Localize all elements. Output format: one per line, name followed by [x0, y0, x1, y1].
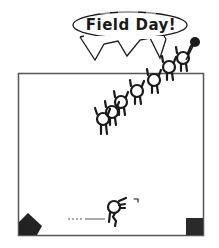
speech-bubble-text: Field Day! — [74, 16, 188, 34]
game-scene[interactable]: Field Day! — [0, 0, 219, 248]
right-corner-block — [186, 218, 203, 235]
climbing-figures — [95, 46, 191, 134]
player-figure[interactable] — [108, 198, 138, 226]
left-corner-block — [19, 213, 42, 235]
